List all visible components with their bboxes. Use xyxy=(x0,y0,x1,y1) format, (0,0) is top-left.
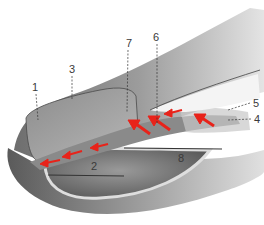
label-1: 1 xyxy=(32,82,38,93)
diagram-canvas: 1 2 3 4 5 6 7 8 xyxy=(0,0,264,225)
label-3: 3 xyxy=(69,64,75,75)
label-6: 6 xyxy=(153,32,159,43)
anatomy-illustration xyxy=(0,0,264,225)
label-7: 7 xyxy=(126,38,132,49)
label-4: 4 xyxy=(254,114,260,125)
label-5: 5 xyxy=(253,98,259,109)
label-8: 8 xyxy=(178,153,184,164)
label-2: 2 xyxy=(91,161,97,172)
